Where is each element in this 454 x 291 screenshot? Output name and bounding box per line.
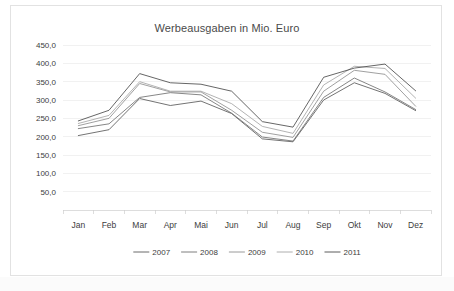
y-axis-tick-label: 50,0: [40, 188, 56, 197]
series-line-2009: [78, 70, 415, 137]
y-axis-tick-label: 200,0: [36, 133, 57, 142]
x-axis-tick-label: Sep: [316, 220, 331, 230]
y-axis-tick-label: 400,0: [36, 59, 57, 68]
legend-label-2009[interactable]: 2009: [248, 248, 266, 257]
legend-label-2010[interactable]: 2010: [296, 248, 314, 257]
x-axis-tick-label: Aug: [285, 220, 300, 230]
screenshot-root: Werbeausgaben in Mio. Euro 450,0400,0350…: [0, 0, 454, 291]
y-axis-tick-label: 150,0: [36, 151, 57, 160]
plot-area: 450,0400,0350,0300,0250,0200,0150,0100,0…: [11, 6, 443, 277]
chart-figure: Werbeausgaben in Mio. Euro 450,0400,0350…: [10, 5, 442, 276]
y-axis-tick-label: 250,0: [36, 114, 57, 123]
y-axis-tick-label: 350,0: [36, 78, 57, 87]
y-axis-tick-label: 450,0: [36, 41, 57, 50]
x-axis-tick-label: Apr: [164, 220, 177, 230]
series-line-2007: [78, 83, 415, 142]
x-axis-tick-label: Dez: [408, 220, 423, 230]
x-axis-tick-label: Okt: [348, 220, 362, 230]
x-axis-tick-label: Nov: [377, 220, 393, 230]
y-axis-tick-label: 100,0: [36, 169, 57, 178]
x-axis-tick-label: Jun: [225, 220, 239, 230]
bottom-edge-shade: [0, 277, 454, 291]
x-axis-tick-label: Feb: [102, 220, 117, 230]
x-axis-tick-label: Jul: [257, 220, 268, 230]
legend-label-2007[interactable]: 2007: [152, 248, 170, 257]
y-axis-tick-label: 300,0: [36, 96, 57, 105]
x-axis-tick-label: Mar: [132, 220, 147, 230]
x-axis-tick-label: Jan: [71, 220, 85, 230]
line-chart-svg: 450,0400,0350,0300,0250,0200,0150,0100,0…: [11, 6, 443, 277]
legend-label-2008[interactable]: 2008: [200, 248, 218, 257]
legend-label-2011[interactable]: 2011: [343, 248, 361, 257]
x-axis-tick-label: Mai: [194, 220, 208, 230]
